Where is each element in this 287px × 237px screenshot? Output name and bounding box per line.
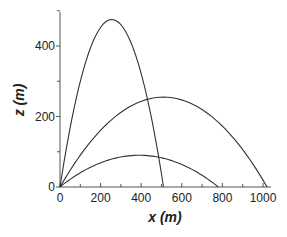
y-axis-label: z (m)	[11, 83, 27, 117]
x-tick-label: 200	[91, 191, 111, 205]
x-tick-label: 400	[131, 191, 151, 205]
trajectory-chart: 020040060080010000200400 x (m) z (m)	[0, 0, 287, 237]
series-line-trajectory-medium	[60, 97, 267, 187]
y-tick-label: 0	[48, 180, 55, 194]
x-tick-label: 0	[57, 191, 64, 205]
x-axis-label: x (m)	[147, 209, 182, 225]
y-tick-label: 200	[35, 110, 55, 124]
x-tick-label: 800	[212, 191, 232, 205]
x-tick-label: 600	[172, 191, 192, 205]
x-tick-label: 1000	[250, 191, 277, 205]
axes	[60, 12, 271, 187]
series-lines	[60, 20, 267, 187]
series-line-trajectory-low	[60, 155, 218, 187]
y-tick-label: 400	[35, 39, 55, 53]
